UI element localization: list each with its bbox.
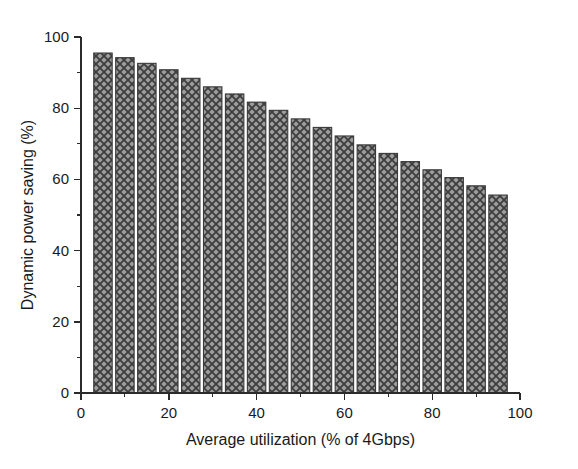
y-tick-label: 60 [52,170,69,187]
x-tick-label: 100 [507,404,532,421]
x-tick-label: 20 [160,404,177,421]
y-tick-label: 0 [61,384,69,401]
x-tick-label: 60 [336,404,353,421]
x-tick-label: 0 [77,404,85,421]
x-tick-label: 40 [248,404,265,421]
bar [291,119,309,393]
bar [182,78,200,393]
bar [357,145,375,393]
bar [94,53,112,393]
bar [445,178,463,393]
x-axis-title: Average utilization (% of 4Gbps) [186,431,415,448]
bar [489,195,507,393]
bar [247,102,265,393]
chart-figure: 020406080100 020406080100 Dynamic power … [0,0,578,469]
bar [401,162,419,393]
y-tick-label: 40 [52,242,69,259]
bar [269,110,287,393]
bar [313,127,331,393]
y-axis-title: Dynamic power saving (%) [19,120,36,310]
bar-chart-svg: 020406080100 020406080100 Dynamic power … [0,0,578,469]
y-tick-label: 100 [44,28,69,45]
bar [423,170,441,393]
bar [467,186,485,393]
bar [335,136,353,393]
bar [138,63,156,393]
y-tick-label: 80 [52,99,69,116]
bar [203,87,221,393]
x-tick-label: 80 [424,404,441,421]
bar [160,70,178,393]
y-tick-label: 20 [52,313,69,330]
bar [379,153,397,393]
bar [116,58,134,393]
bar [225,94,243,393]
